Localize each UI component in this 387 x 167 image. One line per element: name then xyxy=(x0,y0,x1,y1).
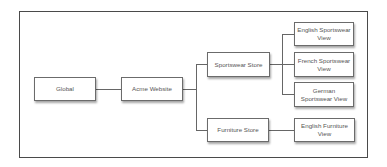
node-english-sportswear-view: English Sportswear View xyxy=(294,22,354,46)
node-sportswear-store: Sportswear Store xyxy=(207,52,270,77)
connector-global-acme xyxy=(96,89,121,90)
connector-acme-branch xyxy=(183,89,196,90)
connector-to-furniture xyxy=(196,130,207,131)
connector-to-sportswear xyxy=(196,64,207,65)
node-furniture-store: Furniture Store xyxy=(207,118,269,142)
node-english-furniture-view: English Furniture View xyxy=(294,118,355,142)
connector-to-german-sportswear xyxy=(282,94,294,95)
connector-furniture-english xyxy=(269,130,294,131)
node-acme-website: Acme Website xyxy=(121,77,183,101)
node-global: Global xyxy=(34,77,96,101)
connector-acme-vertical xyxy=(196,64,197,130)
node-french-sportswear-view: French Sportswear View xyxy=(294,52,354,77)
node-german-sportswear-view: German Sportswear View xyxy=(294,82,354,107)
connector-sportswear-vertical xyxy=(282,34,283,95)
connector-to-english-sportswear xyxy=(282,34,294,35)
